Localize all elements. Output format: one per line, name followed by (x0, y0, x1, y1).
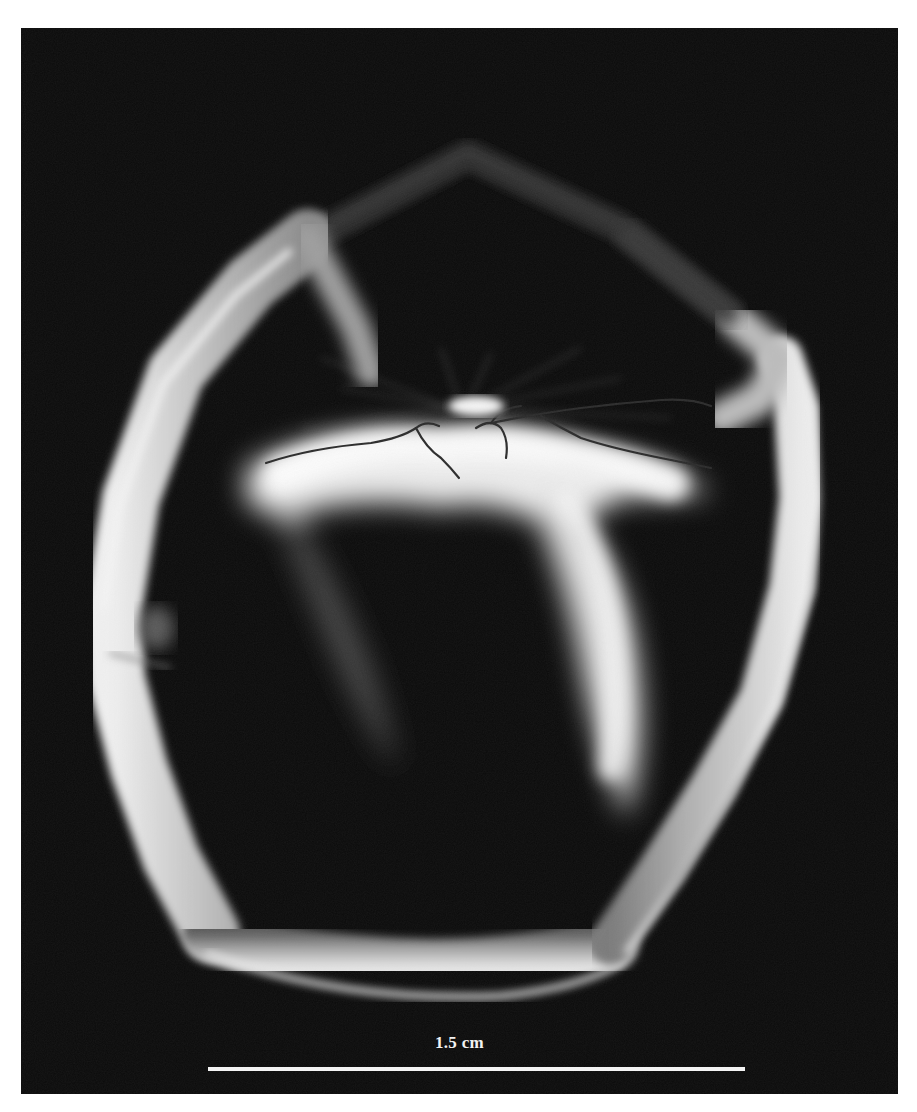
specimen-illustration (21, 28, 898, 1094)
specimen-photo: 1.5 cm (21, 28, 898, 1094)
scale-label: 1.5 cm (21, 1033, 898, 1053)
scale-bar (208, 1067, 745, 1071)
